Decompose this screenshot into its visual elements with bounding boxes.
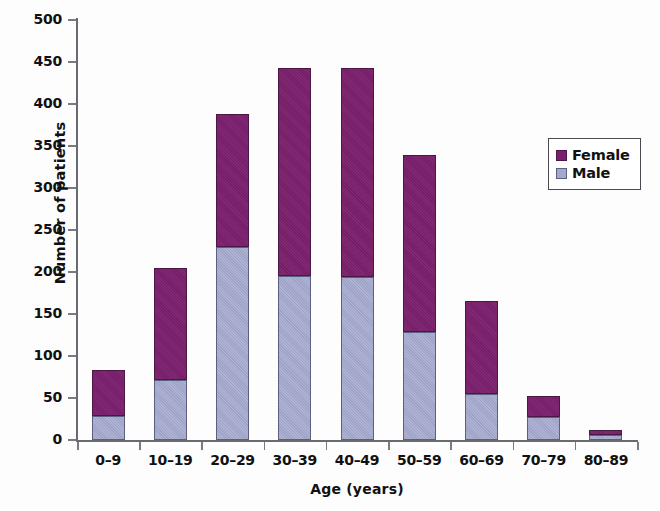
bar-segment-female <box>465 301 498 393</box>
y-tick-label: 200 <box>0 263 62 279</box>
y-tick-label: 300 <box>0 179 62 195</box>
y-tick <box>68 355 76 357</box>
bar-group <box>278 68 311 440</box>
bar-group <box>465 301 498 440</box>
y-tick-label: 50 <box>0 389 62 405</box>
bar-segment-female <box>216 114 249 247</box>
y-tick <box>68 187 76 189</box>
y-tick-label: 450 <box>0 53 62 69</box>
male-swatch-icon <box>556 168 567 179</box>
y-axis-title: Number of patients <box>52 93 68 313</box>
legend-item-male: Male <box>556 165 630 181</box>
x-tick <box>264 442 266 450</box>
legend-label-male: Male <box>572 165 610 181</box>
x-tick <box>77 442 79 450</box>
female-swatch-icon <box>556 150 567 161</box>
y-tick-label: 250 <box>0 221 62 237</box>
bar-segment-female <box>92 370 125 415</box>
y-tick <box>68 19 76 21</box>
y-tick <box>68 397 76 399</box>
legend-item-female: Female <box>556 147 630 163</box>
bar-segment-male <box>341 277 374 440</box>
bar-group <box>92 370 125 440</box>
bar-chart: Number of patients 050100150200250300350… <box>0 0 660 511</box>
bar-segment-male <box>92 416 125 440</box>
x-tick <box>513 442 515 450</box>
y-tick-label: 500 <box>0 11 62 27</box>
x-tick <box>139 442 141 450</box>
x-axis-title: Age (years) <box>77 481 637 497</box>
bar-segment-male <box>465 394 498 440</box>
x-tick <box>450 442 452 450</box>
bar-segment-male <box>527 417 560 440</box>
y-tick-label: 350 <box>0 137 62 153</box>
x-tick <box>201 442 203 450</box>
bar-segment-female <box>403 155 436 332</box>
bar-segment-male <box>589 435 622 440</box>
bar-group <box>154 268 187 440</box>
legend-label-female: Female <box>572 147 630 163</box>
bar-group <box>341 68 374 440</box>
y-tick-label: 150 <box>0 305 62 321</box>
chart-legend: Female Male <box>548 138 641 190</box>
bar-segment-female <box>527 396 560 417</box>
y-tick <box>68 145 76 147</box>
bar-group <box>403 155 436 440</box>
y-tick <box>68 229 76 231</box>
y-tick <box>68 61 76 63</box>
y-tick <box>68 313 76 315</box>
x-axis-line <box>76 440 638 442</box>
x-tick-label: 80–89 <box>566 452 646 468</box>
bar-group <box>589 430 622 440</box>
y-tick <box>68 103 76 105</box>
y-tick-label: 0 <box>0 431 62 447</box>
bar-group <box>216 114 249 440</box>
x-tick <box>575 442 577 450</box>
bar-segment-male <box>216 247 249 440</box>
y-tick-label: 100 <box>0 347 62 363</box>
x-tick <box>326 442 328 450</box>
bar-segment-female <box>341 68 374 277</box>
bar-segment-male <box>403 332 436 440</box>
bar-segment-female <box>154 268 187 380</box>
x-tick <box>388 442 390 450</box>
x-tick <box>637 442 639 450</box>
bar-group <box>527 396 560 440</box>
bar-segment-male <box>278 276 311 440</box>
y-axis-line <box>76 18 78 442</box>
bar-segment-female <box>278 68 311 276</box>
y-tick <box>68 271 76 273</box>
y-tick <box>68 439 76 441</box>
bar-segment-male <box>154 380 187 440</box>
y-tick-label: 400 <box>0 95 62 111</box>
